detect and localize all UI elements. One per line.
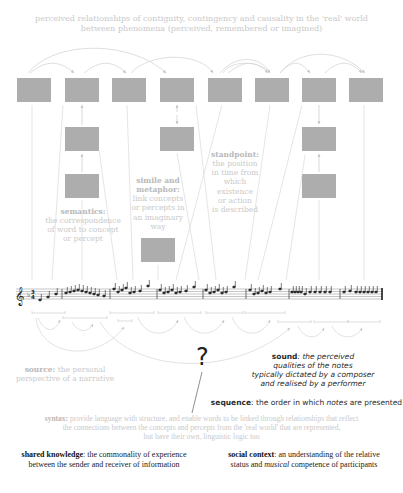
note-head xyxy=(205,289,208,291)
note-head xyxy=(97,294,100,296)
note-head xyxy=(294,291,297,293)
social-context-text-2: status and xyxy=(231,460,265,469)
note-head xyxy=(117,291,120,293)
note-head xyxy=(159,289,162,291)
sequence-term: sequence xyxy=(211,398,251,407)
concept-box xyxy=(349,78,383,102)
note-head xyxy=(81,290,84,292)
note-head xyxy=(233,286,236,288)
svg-text:4: 4 xyxy=(31,294,35,300)
note-head xyxy=(217,289,220,291)
simile-metaphor-label: simile and metaphor: link concepts or pe… xyxy=(128,176,188,231)
note-head xyxy=(297,291,300,293)
arc xyxy=(220,60,270,74)
concept-box xyxy=(160,127,194,151)
concept-box xyxy=(65,174,99,198)
simile-line: an imaginary xyxy=(128,213,188,222)
note-head xyxy=(179,291,182,293)
note-head xyxy=(77,289,80,291)
note-head xyxy=(355,291,358,293)
semantics-label: semantics: the correspondence of word to… xyxy=(28,207,138,244)
standpoint-label: standpoint: the position in time from wh… xyxy=(205,150,265,214)
concept-box xyxy=(65,78,99,102)
standpoint-line: which xyxy=(205,177,265,186)
note-head xyxy=(213,291,216,293)
question-pointer xyxy=(192,372,202,413)
arc xyxy=(131,57,213,73)
note-head xyxy=(65,292,68,294)
standpoint-line: the position xyxy=(205,159,265,168)
note-head xyxy=(55,293,58,295)
note-head xyxy=(93,293,96,295)
note-head xyxy=(300,291,303,293)
phrase-brackets xyxy=(32,311,380,323)
concept-box xyxy=(255,78,289,102)
note-head xyxy=(319,291,322,293)
note-head xyxy=(265,292,268,294)
simile-line: or percepts in xyxy=(128,203,188,212)
sound-label: sound: the perceived qualities of the no… xyxy=(238,352,388,389)
note-head xyxy=(375,291,378,293)
social-context-text-3: competence of participants xyxy=(289,460,377,469)
social-context-text: : an understanding of the relative xyxy=(274,450,380,459)
note-head xyxy=(329,291,332,293)
shared-knowledge-label: shared knowledge: the commonality of exp… xyxy=(4,450,204,470)
note-head xyxy=(175,292,178,294)
concept-box xyxy=(141,238,175,262)
semantics-term: semantics: xyxy=(60,207,105,216)
semantics-line: the correspondence xyxy=(28,216,138,225)
note-head xyxy=(125,287,128,289)
note-head xyxy=(121,289,124,291)
concept-box xyxy=(17,78,51,102)
source-term: source: xyxy=(25,365,56,374)
note-head xyxy=(363,291,366,293)
header-line-1: perceived relationships of contiguity, c… xyxy=(0,14,403,24)
note-head xyxy=(133,291,136,293)
standpoint-term: standpoint: xyxy=(211,150,259,159)
note-head xyxy=(193,286,196,288)
social-context-label: social context: an understanding of the … xyxy=(205,450,403,470)
note-head xyxy=(139,290,142,292)
sound-line-4: and realised by a performer xyxy=(238,379,388,388)
source-text: the personal xyxy=(55,365,105,374)
note-head xyxy=(257,292,260,294)
note-head xyxy=(309,291,312,293)
note-head xyxy=(147,285,150,287)
arc xyxy=(84,63,126,73)
concept-box xyxy=(302,78,336,102)
note-head xyxy=(221,292,224,294)
music-staff: 𝄞 ♭ 3 4 xyxy=(15,280,383,306)
note-head xyxy=(253,293,256,295)
shared-knowledge-line-2: between the sender and receiver of infor… xyxy=(4,460,204,470)
sequence-text: : the order in which xyxy=(251,398,326,407)
social-context-italic: musical xyxy=(264,460,289,469)
syntax-line-3: but have their own, linguistic logic too xyxy=(0,432,403,441)
note-head xyxy=(269,291,272,293)
note-head xyxy=(163,292,166,294)
sequence-italic: notes xyxy=(327,398,348,407)
shared-knowledge-text: : the commonality of experience xyxy=(83,450,187,459)
shared-knowledge-term: shared knowledge xyxy=(22,450,83,459)
question-mark: ? xyxy=(196,345,209,369)
semantics-line: of word to concept xyxy=(28,225,138,234)
standpoint-line: is described xyxy=(205,205,265,214)
note-head xyxy=(113,288,116,290)
concept-box xyxy=(302,127,336,151)
note-head xyxy=(47,296,50,298)
note-head xyxy=(171,289,174,291)
concept-box xyxy=(65,127,99,151)
note-head xyxy=(291,291,294,293)
note-head xyxy=(279,288,282,290)
note-head xyxy=(367,291,370,293)
header-line-2: between phenomena (perceived, remembered… xyxy=(0,24,403,34)
source-label: source: the personal perspective of a na… xyxy=(10,365,120,383)
standpoint-line: or action xyxy=(205,196,265,205)
source-line-2: perspective of a narrative xyxy=(10,374,120,383)
note-head xyxy=(89,292,92,294)
semantics-line: or percept xyxy=(28,234,138,243)
note-head xyxy=(103,295,106,297)
note-head xyxy=(249,289,252,291)
header-caption: perceived relationships of contiguity, c… xyxy=(0,14,403,34)
concept-box xyxy=(208,78,242,102)
sequence-label: sequence: the order in which notes are p… xyxy=(210,398,403,407)
